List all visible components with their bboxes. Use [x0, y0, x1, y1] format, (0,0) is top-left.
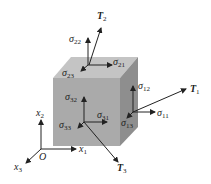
label-sigma11: σ11 [157, 108, 169, 120]
label-T2: T2 [97, 11, 107, 23]
label-sigma22: σ22 [69, 34, 81, 46]
label-T3: T3 [117, 163, 127, 175]
label-sigma12: σ12 [138, 81, 150, 93]
stress-cube-diagram: T2 σ22 σ21 σ23 σ12 T1 σ11 σ13 σ32 σ31 σ3… [0, 0, 211, 184]
label-x1: x1 [79, 144, 87, 156]
label-T1: T1 [190, 84, 200, 96]
label-sigma13: σ13 [121, 118, 133, 130]
label-sigma31: σ31 [97, 110, 109, 122]
label-sigma23: σ23 [62, 68, 74, 80]
label-x2: x2 [36, 108, 44, 120]
label-sigma21: σ21 [113, 57, 125, 69]
label-sigma32: σ32 [65, 92, 77, 104]
label-origin: O [39, 152, 46, 162]
label-x3: x3 [14, 162, 22, 174]
label-sigma33: σ33 [59, 120, 71, 132]
cube-front-face [53, 78, 120, 146]
diagram-canvas [0, 0, 211, 184]
